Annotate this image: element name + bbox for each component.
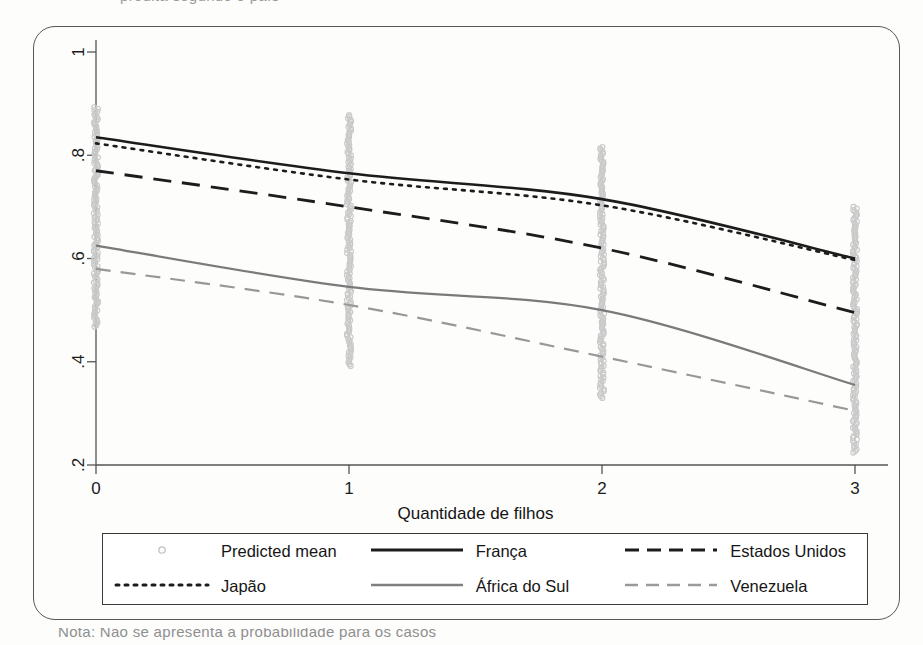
scatter-predicted-mean xyxy=(91,105,859,455)
y-tick-label: .4 xyxy=(69,355,88,369)
legend-label-predicted-mean: Predicted mean xyxy=(221,534,358,569)
legend-key-glyph xyxy=(369,578,465,592)
series-line-fran-a xyxy=(96,137,855,258)
y-tick-label: .6 xyxy=(69,251,88,265)
y-tick-label: .8 xyxy=(69,148,88,162)
legend-label-japao: Japão xyxy=(221,569,358,604)
page-bottom-clipped-text: Nota: Não se apresenta a probabilidade p… xyxy=(0,628,923,645)
legend-key-predicted-mean xyxy=(103,534,221,569)
y-tick-label: .2 xyxy=(69,458,88,472)
legend-key-glyph xyxy=(114,578,210,592)
legend-key-glyph xyxy=(623,578,719,592)
legend-label-franca: França xyxy=(476,534,613,569)
x-tick-label: 3 xyxy=(850,479,859,498)
open-circle-icon xyxy=(159,547,165,553)
legend-key-glyph xyxy=(623,543,719,557)
legend-key-venezuela xyxy=(612,569,730,604)
legend-key-africa-do-sul xyxy=(358,569,476,604)
scanned-page: predita segundo o país .2.4.6.810123Quan… xyxy=(0,0,923,645)
bottom-clipped-caption: Nota: Não se apresenta a probabilidade p… xyxy=(58,628,436,640)
legend-key-japao xyxy=(103,569,221,604)
legend-label-estados-unidos: Estados Unidos xyxy=(730,534,867,569)
x-tick-label: 2 xyxy=(597,479,606,498)
legend-row: Japão África do Sul Venezuela xyxy=(103,569,867,604)
legend-key-glyph xyxy=(114,543,210,557)
legend-label-africa-do-sul: África do Sul xyxy=(476,569,613,604)
series-line-jap-o xyxy=(96,143,855,260)
y-tick-label: 1 xyxy=(69,47,88,56)
x-axis-title: Quantidade de filhos xyxy=(398,504,554,523)
legend-key-estados-unidos xyxy=(612,534,730,569)
series-line--frica-do-sul xyxy=(96,246,855,385)
legend-table: Predicted mean França Estados Unidos Jap… xyxy=(103,534,867,604)
legend-row: Predicted mean França Estados Unidos xyxy=(103,534,867,569)
legend-key-glyph xyxy=(369,543,465,557)
series-line-estados-unidos xyxy=(96,171,855,313)
legend-key-franca xyxy=(358,534,476,569)
x-tick-label: 0 xyxy=(91,479,100,498)
chart-legend: Predicted mean França Estados Unidos Jap… xyxy=(102,533,868,605)
x-tick-label: 1 xyxy=(344,479,353,498)
legend-label-venezuela: Venezuela xyxy=(730,569,867,604)
series-line-venezuela xyxy=(96,269,855,411)
